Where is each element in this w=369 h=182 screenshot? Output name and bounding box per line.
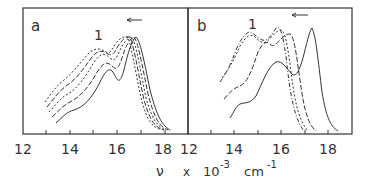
tick-label-a-16: 16	[108, 141, 126, 157]
panel-a-curve1-label: 1	[94, 27, 103, 43]
panel-b-ticks	[211, 130, 328, 134]
tick-label-a-14: 14	[61, 141, 79, 157]
tick-label-b-12: 12	[180, 141, 198, 157]
x-axis-label: ν x 10 -3 cm -1	[156, 159, 277, 179]
panel-b-curve-3	[222, 30, 308, 131]
tick-label-b-14: 14	[225, 141, 243, 157]
panel-a-curve-5	[45, 37, 162, 130]
tick-label-a-18: 18	[154, 141, 172, 157]
panel-a-label: a	[31, 17, 40, 35]
times-symbol: x	[183, 165, 190, 179]
svg-text:-3: -3	[220, 159, 230, 170]
panel-b-curve-2	[224, 34, 316, 131]
svg-text:10: 10	[203, 164, 220, 179]
spectra-figure: 12 14 16 18 12 14 16 18 ν x 10 -3 cm -1 …	[0, 0, 369, 182]
panel-b-curve-4	[220, 28, 304, 131]
svg-text:cm: cm	[244, 164, 264, 179]
panel-a-curves	[45, 37, 170, 130]
nu-symbol: ν	[156, 163, 164, 179]
tick-label-a-12: 12	[14, 141, 32, 157]
tick-label-b-18: 18	[319, 141, 337, 157]
panel-b-curve-1	[230, 28, 338, 131]
svg-text:-1: -1	[267, 159, 277, 170]
panel-b-curves	[220, 28, 338, 131]
tick-label-b-16: 16	[272, 141, 290, 157]
panel-a-ticks	[46, 130, 165, 134]
panel-b-curve1-label: 1	[248, 16, 257, 32]
panel-a-frame	[23, 8, 188, 134]
panel-a-curve-4	[47, 37, 164, 130]
panel-b-label: b	[197, 17, 207, 35]
